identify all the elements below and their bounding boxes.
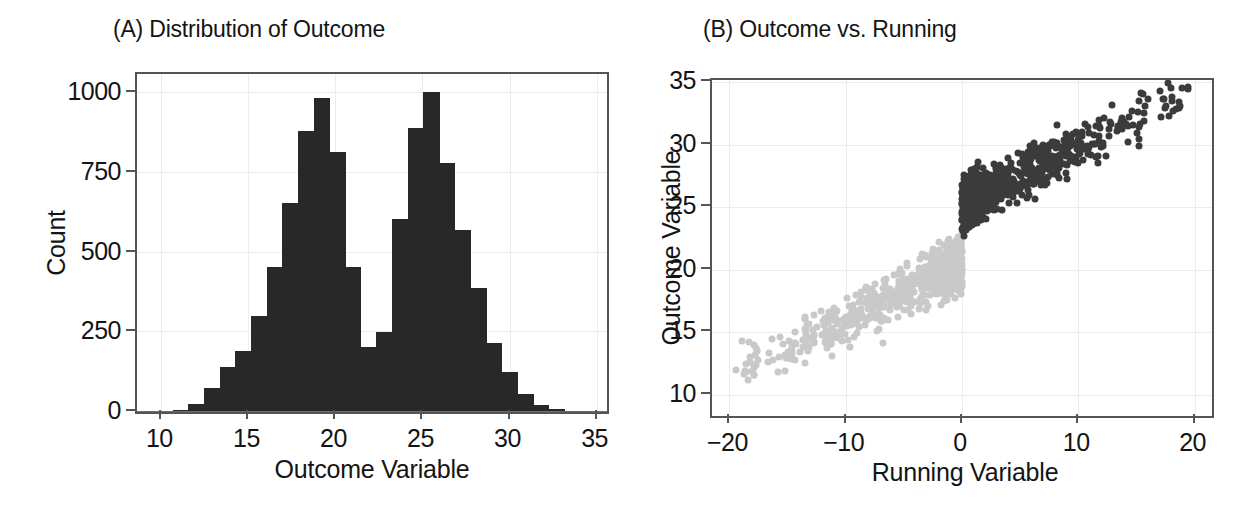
scatter-point [752, 344, 759, 351]
scatter-point [919, 286, 926, 293]
scatter-point [1117, 119, 1124, 126]
gridline-vertical [161, 74, 162, 412]
scatter-point [803, 321, 810, 328]
scatter-point [1136, 123, 1143, 130]
scatter-point [1012, 188, 1019, 195]
scatter-point [1062, 152, 1069, 159]
scatter-point [751, 372, 758, 379]
xaxis-tick-label: −20 [707, 428, 748, 457]
yaxis-tick-label: 250 [81, 316, 121, 345]
scatter-point [844, 322, 851, 329]
scatter-point [1005, 177, 1012, 184]
scatter-point [873, 327, 880, 334]
histogram-bar [251, 316, 267, 412]
gridline-horizontal [137, 92, 607, 93]
scatter-point [1093, 122, 1100, 129]
scatter-point [879, 339, 886, 346]
scatter-point [908, 272, 915, 279]
scatter-point [1136, 142, 1143, 149]
yaxis-tick-label: 500 [81, 236, 121, 265]
scatter-point [1106, 133, 1113, 140]
panel-b-scatter: (B) Outcome vs. Running −20−100102010152… [625, 0, 1250, 512]
scatter-point [866, 306, 873, 313]
scatter-point [973, 197, 980, 204]
panel-a-plot-area [135, 72, 609, 414]
yaxis-tick-label: 1000 [67, 77, 121, 106]
scatter-point [1071, 157, 1078, 164]
scatter-point [891, 271, 898, 278]
panel-b-title: (B) Outcome vs. Running [703, 16, 957, 43]
scatter-point [899, 276, 906, 283]
scatter-point [983, 200, 990, 207]
scatter-point [993, 205, 1000, 212]
scatter-point [738, 337, 745, 344]
scatter-point [872, 281, 879, 288]
scatter-point [922, 298, 929, 305]
scatter-point [1083, 143, 1090, 150]
scatter-point [1026, 164, 1033, 171]
xaxis-tick-label: 25 [407, 424, 434, 453]
scatter-point [826, 308, 833, 315]
histogram-bar [204, 388, 220, 412]
scatter-point [946, 284, 953, 291]
gridline-horizontal [137, 331, 607, 332]
scatter-point [942, 252, 949, 259]
scatter-point [1184, 85, 1191, 92]
scatter-point [1172, 105, 1179, 112]
panel-a-baseline [137, 411, 607, 412]
scatter-point [783, 355, 790, 362]
scatter-point [936, 239, 943, 246]
scatter-point [1068, 139, 1075, 146]
scatter-point [1023, 194, 1030, 201]
scatter-point [1135, 98, 1142, 105]
yaxis-tick [701, 267, 710, 269]
scatter-point [966, 224, 973, 231]
xaxis-tick-label: 0 [953, 428, 966, 457]
scatter-point [1004, 155, 1011, 162]
panel-a-title: (A) Distribution of Outcome [113, 16, 385, 43]
xaxis-tick-label: 10 [1063, 428, 1090, 457]
xaxis-tick [844, 414, 846, 423]
histogram-bar [361, 347, 377, 412]
scatter-point [922, 307, 929, 314]
gridline-horizontal [712, 395, 1212, 396]
xaxis-tick [595, 410, 597, 419]
panel-a-yaxis-title: Count [42, 210, 71, 276]
yaxis-tick [126, 170, 135, 172]
gridline-horizontal [137, 172, 607, 173]
scatter-point [1086, 130, 1093, 137]
scatter-point [764, 359, 771, 366]
scatter-point [834, 332, 841, 339]
scatter-point [1037, 158, 1044, 165]
yaxis-tick [126, 90, 135, 92]
scatter-point [945, 243, 952, 250]
scatter-point [1095, 160, 1102, 167]
gridline-horizontal [712, 82, 1212, 83]
scatter-point [1064, 176, 1071, 183]
histogram-bar [470, 288, 486, 412]
yaxis-tick [701, 79, 710, 81]
scatter-point [1140, 110, 1147, 117]
scatter-point [880, 277, 887, 284]
xaxis-tick-label: 35 [581, 424, 608, 453]
scatter-point [1004, 191, 1011, 198]
scatter-point [765, 349, 772, 356]
scatter-point [958, 258, 965, 265]
scatter-point [895, 313, 902, 320]
panel-b-xaxis-title: Running Variable [872, 458, 1059, 487]
scatter-point [1024, 154, 1031, 161]
scatter-point [917, 255, 924, 262]
yaxis-tick [701, 329, 710, 331]
scatter-point [1032, 195, 1039, 202]
histogram-bar [486, 343, 502, 412]
scatter-point [846, 343, 853, 350]
scatter-point [828, 340, 835, 347]
scatter-point [1037, 181, 1044, 188]
xaxis-tick [727, 414, 729, 423]
scatter-point [802, 360, 809, 367]
scatter-point [853, 330, 860, 337]
histogram-bar [376, 332, 392, 412]
scatter-point [909, 297, 916, 304]
scatter-point [1109, 101, 1116, 108]
xaxis-tick [1193, 414, 1195, 423]
